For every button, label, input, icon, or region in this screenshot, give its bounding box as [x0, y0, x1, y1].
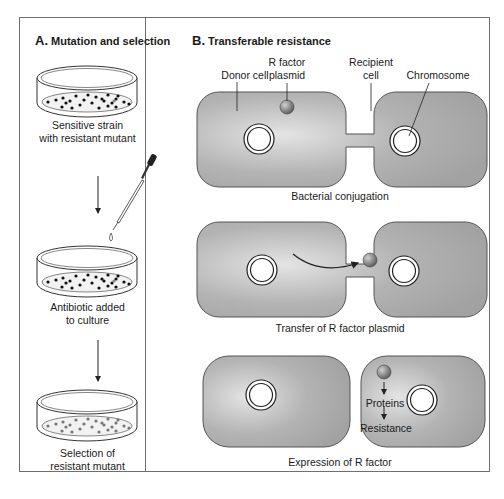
- conjugation-stage: [197, 82, 487, 187]
- pipette-icon: [110, 153, 158, 255]
- step-3-caption: Selection of resistant mutant: [30, 447, 145, 473]
- expressed-plasmid: [377, 365, 391, 379]
- caption-line: with resistant mutant: [30, 132, 145, 145]
- r-factor-plasmid-label: R factor plasmid: [262, 56, 312, 82]
- petri-dish-2: [37, 246, 137, 297]
- stage-3-caption: Expression of R factor: [250, 456, 430, 469]
- step-1-caption: Sensitive strain with resistant mutant: [30, 119, 145, 145]
- caption-line: to culture: [30, 314, 145, 327]
- step-2-caption: Antibiotic added to culture: [30, 301, 145, 327]
- stage-1-caption: Bacterial conjugation: [250, 190, 430, 203]
- resistant-mutant-colony: [112, 99, 115, 102]
- petri-dish-3: [37, 390, 137, 441]
- caption-line: Selection of: [30, 447, 145, 460]
- caption-line: resistant mutant: [30, 460, 145, 473]
- caption-line: Antibiotic added: [30, 301, 145, 314]
- petri-dish-1: [37, 66, 137, 117]
- recipient-cell-label: Recipient cell: [343, 56, 399, 82]
- transferred-plasmid: [363, 253, 377, 267]
- label-line: Recipient: [343, 56, 399, 69]
- label-line: R factor: [262, 56, 312, 69]
- chromosome-label: Chromosome: [398, 69, 478, 82]
- transfer-stage: [197, 222, 487, 317]
- label-line: plasmid: [262, 69, 312, 82]
- conjugating-cells: [197, 92, 487, 187]
- caption-line: Sensitive strain: [30, 119, 145, 132]
- label-line: cell: [343, 69, 399, 82]
- proteins-label: Proteins: [360, 397, 410, 410]
- donor-cell-separated: [203, 356, 350, 447]
- r-factor-plasmid: [280, 100, 294, 114]
- expression-stage: [203, 356, 485, 447]
- resistance-label: Resistance: [357, 422, 415, 435]
- stage-2-caption: Transfer of R factor plasmid: [250, 322, 430, 335]
